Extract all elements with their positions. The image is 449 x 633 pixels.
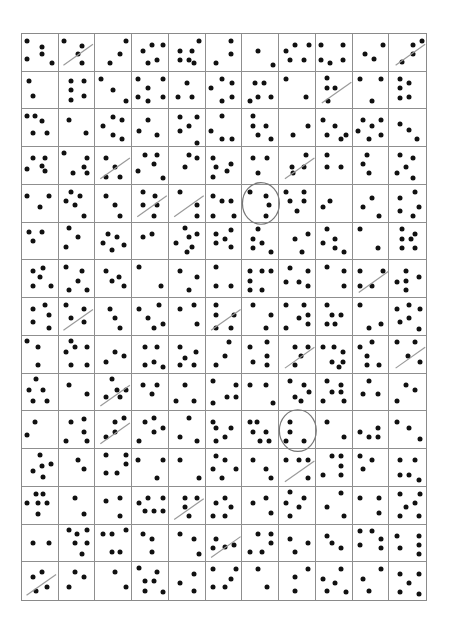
dot-cell[interactable] bbox=[206, 411, 243, 449]
dot-cell[interactable] bbox=[206, 34, 243, 72]
dot-cell[interactable] bbox=[132, 298, 169, 336]
dot-cell[interactable] bbox=[169, 562, 206, 600]
dot-cell[interactable] bbox=[169, 298, 206, 336]
dot-cell[interactable] bbox=[169, 185, 206, 223]
dot-cell[interactable] bbox=[389, 562, 426, 600]
dot-cell[interactable] bbox=[389, 109, 426, 147]
dot-cell[interactable] bbox=[22, 34, 59, 72]
dot-cell[interactable] bbox=[95, 374, 132, 412]
dot-cell[interactable] bbox=[279, 487, 316, 525]
dot-cell[interactable] bbox=[353, 449, 390, 487]
dot-cell[interactable] bbox=[132, 147, 169, 185]
dot-cell[interactable] bbox=[242, 298, 279, 336]
dot-cell[interactable] bbox=[389, 336, 426, 374]
dot-cell[interactable] bbox=[353, 223, 390, 261]
dot-cell[interactable] bbox=[242, 525, 279, 563]
dot-cell[interactable] bbox=[59, 298, 96, 336]
dot-cell[interactable] bbox=[206, 147, 243, 185]
dot-cell[interactable] bbox=[279, 411, 316, 449]
dot-cell[interactable] bbox=[22, 147, 59, 185]
dot-cell[interactable] bbox=[353, 147, 390, 185]
dot-cell[interactable] bbox=[22, 449, 59, 487]
dot-cell[interactable] bbox=[242, 487, 279, 525]
dot-cell[interactable] bbox=[389, 487, 426, 525]
dot-cell[interactable] bbox=[242, 72, 279, 110]
dot-cell[interactable] bbox=[132, 336, 169, 374]
dot-cell[interactable] bbox=[242, 147, 279, 185]
dot-cell[interactable] bbox=[169, 411, 206, 449]
dot-cell[interactable] bbox=[389, 34, 426, 72]
dot-cell[interactable] bbox=[22, 72, 59, 110]
dot-cell[interactable] bbox=[206, 525, 243, 563]
dot-cell[interactable] bbox=[316, 109, 353, 147]
dot-cell[interactable] bbox=[169, 109, 206, 147]
dot-cell[interactable] bbox=[169, 336, 206, 374]
dot-cell[interactable] bbox=[206, 109, 243, 147]
dot-cell[interactable] bbox=[132, 72, 169, 110]
dot-cell[interactable] bbox=[279, 260, 316, 298]
dot-cell[interactable] bbox=[22, 374, 59, 412]
dot-cell[interactable] bbox=[353, 260, 390, 298]
dot-cell[interactable] bbox=[389, 449, 426, 487]
dot-cell[interactable] bbox=[242, 562, 279, 600]
dot-cell[interactable] bbox=[316, 374, 353, 412]
dot-cell[interactable] bbox=[316, 72, 353, 110]
dot-cell[interactable] bbox=[59, 109, 96, 147]
dot-cell[interactable] bbox=[206, 449, 243, 487]
dot-cell[interactable] bbox=[353, 298, 390, 336]
dot-cell[interactable] bbox=[389, 260, 426, 298]
dot-cell[interactable] bbox=[316, 185, 353, 223]
dot-cell[interactable] bbox=[242, 374, 279, 412]
dot-cell[interactable] bbox=[169, 223, 206, 261]
dot-cell[interactable] bbox=[389, 185, 426, 223]
dot-cell[interactable] bbox=[95, 185, 132, 223]
dot-cell[interactable] bbox=[22, 298, 59, 336]
dot-cell[interactable] bbox=[279, 525, 316, 563]
dot-cell[interactable] bbox=[95, 147, 132, 185]
dot-cell[interactable] bbox=[316, 260, 353, 298]
dot-cell[interactable] bbox=[353, 336, 390, 374]
dot-cell[interactable] bbox=[169, 374, 206, 412]
dot-cell[interactable] bbox=[169, 449, 206, 487]
dot-cell[interactable] bbox=[59, 34, 96, 72]
dot-cell[interactable] bbox=[206, 487, 243, 525]
dot-cell[interactable] bbox=[279, 562, 316, 600]
dot-cell[interactable] bbox=[169, 147, 206, 185]
dot-cell[interactable] bbox=[353, 185, 390, 223]
dot-cell[interactable] bbox=[316, 487, 353, 525]
dot-cell[interactable] bbox=[95, 411, 132, 449]
dot-cell[interactable] bbox=[132, 260, 169, 298]
dot-cell[interactable] bbox=[242, 336, 279, 374]
dot-cell[interactable] bbox=[169, 487, 206, 525]
dot-cell[interactable] bbox=[169, 525, 206, 563]
dot-cell[interactable] bbox=[22, 223, 59, 261]
dot-cell[interactable] bbox=[389, 223, 426, 261]
dot-cell[interactable] bbox=[353, 109, 390, 147]
dot-cell[interactable] bbox=[59, 449, 96, 487]
dot-cell[interactable] bbox=[59, 487, 96, 525]
dot-cell[interactable] bbox=[95, 34, 132, 72]
dot-cell[interactable] bbox=[279, 72, 316, 110]
dot-cell[interactable] bbox=[389, 411, 426, 449]
dot-cell[interactable] bbox=[389, 525, 426, 563]
dot-cell[interactable] bbox=[242, 411, 279, 449]
dot-cell[interactable] bbox=[132, 374, 169, 412]
dot-cell[interactable] bbox=[206, 562, 243, 600]
dot-cell[interactable] bbox=[353, 34, 390, 72]
dot-cell[interactable] bbox=[279, 223, 316, 261]
dot-cell[interactable] bbox=[22, 260, 59, 298]
dot-cell[interactable] bbox=[316, 34, 353, 72]
dot-cell[interactable] bbox=[242, 185, 279, 223]
dot-cell[interactable] bbox=[279, 185, 316, 223]
dot-cell[interactable] bbox=[95, 260, 132, 298]
dot-cell[interactable] bbox=[132, 34, 169, 72]
dot-cell[interactable] bbox=[132, 109, 169, 147]
dot-cell[interactable] bbox=[206, 374, 243, 412]
dot-cell[interactable] bbox=[59, 336, 96, 374]
dot-cell[interactable] bbox=[242, 223, 279, 261]
dot-cell[interactable] bbox=[132, 411, 169, 449]
dot-cell[interactable] bbox=[389, 298, 426, 336]
dot-cell[interactable] bbox=[206, 185, 243, 223]
dot-cell[interactable] bbox=[242, 109, 279, 147]
dot-cell[interactable] bbox=[22, 562, 59, 600]
